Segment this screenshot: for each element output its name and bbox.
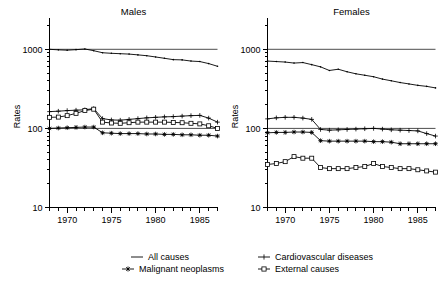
marker-square xyxy=(171,120,175,124)
y-axis-title: Rates xyxy=(230,104,240,128)
marker-star-center xyxy=(137,133,139,135)
marker-dot xyxy=(355,73,357,75)
marker-dot xyxy=(137,54,139,56)
marker-plus xyxy=(65,108,70,113)
x-tick-label: 1970 xyxy=(57,215,77,225)
marker-star-center xyxy=(267,132,269,134)
marker-dot xyxy=(267,60,269,62)
marker-square xyxy=(336,167,340,171)
marker-dot xyxy=(302,62,304,64)
legend-label: All causes xyxy=(148,252,190,262)
marker-dot xyxy=(49,49,51,51)
x-tick-label: 1975 xyxy=(319,215,339,225)
y-tick-label: 10 xyxy=(32,203,42,213)
marker-star-center xyxy=(172,133,174,135)
marker-square xyxy=(136,120,140,124)
marker-dot xyxy=(382,78,384,80)
marker-square xyxy=(283,160,287,164)
marker-dot xyxy=(66,49,68,51)
marker-star-center xyxy=(364,140,366,142)
figure-root: Males1010010001970197519801985RatesFemal… xyxy=(0,0,447,283)
marker-square xyxy=(407,167,411,171)
chart-panel-females: Females1010010001970197519801985Rates xyxy=(230,6,438,225)
marker-square xyxy=(345,167,349,171)
marker-star-center xyxy=(102,132,104,134)
x-tick-label: 1985 xyxy=(190,215,210,225)
x-tick-label: 1980 xyxy=(364,215,384,225)
y-tick-label: 1000 xyxy=(240,45,260,55)
marker-plus xyxy=(274,116,279,121)
marker-square xyxy=(180,121,184,125)
marker-dot xyxy=(293,62,295,64)
marker-star-center xyxy=(217,135,219,137)
marker-square xyxy=(145,120,149,124)
marker-dot xyxy=(417,85,419,87)
legend-marker-square xyxy=(262,267,266,271)
marker-dot xyxy=(373,76,375,78)
marker-plus xyxy=(215,120,220,125)
marker-star-center xyxy=(328,140,330,142)
marker-dot xyxy=(329,70,331,72)
marker-star-center xyxy=(164,133,166,135)
marker-square xyxy=(425,169,429,173)
legend-marker-star-center xyxy=(127,268,129,270)
marker-star-center xyxy=(49,128,51,130)
marker-star-center xyxy=(284,132,286,134)
marker-square xyxy=(118,121,122,125)
series-line-all-causes xyxy=(50,49,218,66)
marker-square xyxy=(327,167,331,171)
marker-star-center xyxy=(128,133,130,135)
marker-square xyxy=(127,121,131,125)
marker-dot xyxy=(426,86,428,88)
marker-dot xyxy=(119,53,121,55)
legend-item-cardiovascular-diseases[interactable]: Cardiovascular diseases xyxy=(258,252,374,262)
marker-dot xyxy=(93,50,95,52)
marker-plus xyxy=(292,115,297,120)
marker-dot xyxy=(128,53,130,55)
marker-square xyxy=(92,107,96,111)
marker-square xyxy=(74,111,78,115)
x-tick-label: 1980 xyxy=(146,215,166,225)
marker-dot xyxy=(284,61,286,63)
legend-item-all-causes[interactable]: All causes xyxy=(131,252,190,262)
legend-label: External causes xyxy=(275,264,340,274)
marker-square xyxy=(416,168,420,172)
marker-star-center xyxy=(426,143,428,145)
marker-star-center xyxy=(57,127,59,129)
marker-dot xyxy=(146,55,148,57)
y-tick-label: 10 xyxy=(250,203,260,213)
marker-plus xyxy=(265,117,270,122)
marker-plus xyxy=(153,115,158,120)
marker-plus xyxy=(424,131,429,136)
marker-star-center xyxy=(119,133,121,135)
series-line-all-causes xyxy=(268,61,436,88)
marker-dot xyxy=(199,61,201,63)
marker-star-center xyxy=(390,141,392,143)
marker-dot xyxy=(276,61,278,63)
marker-star-center xyxy=(399,143,401,145)
marker-star-center xyxy=(146,133,148,135)
legend-item-external-causes[interactable]: External causes xyxy=(258,264,340,274)
marker-dot xyxy=(164,57,166,59)
marker-star-center xyxy=(302,131,304,133)
marker-dot xyxy=(399,82,401,84)
marker-square xyxy=(101,120,105,124)
marker-dot xyxy=(217,65,219,67)
marker-square xyxy=(274,161,278,165)
marker-dot xyxy=(75,49,77,51)
marker-plus xyxy=(198,113,203,118)
marker-star-center xyxy=(181,134,183,136)
y-axis-title: Rates xyxy=(12,104,22,128)
chart-figure: Males1010010001970197519801985RatesFemal… xyxy=(0,0,447,283)
marker-star-center xyxy=(311,132,313,134)
legend-item-malignant-neoplasms[interactable]: Malignant neoplasms xyxy=(122,264,225,274)
marker-square xyxy=(198,122,202,126)
marker-dot xyxy=(172,59,174,61)
marker-square xyxy=(207,124,211,128)
marker-star-center xyxy=(66,127,68,129)
marker-plus xyxy=(416,129,421,134)
marker-star-center xyxy=(190,134,192,136)
marker-square xyxy=(189,121,193,125)
marker-plus xyxy=(171,114,176,119)
marker-dot xyxy=(320,66,322,68)
